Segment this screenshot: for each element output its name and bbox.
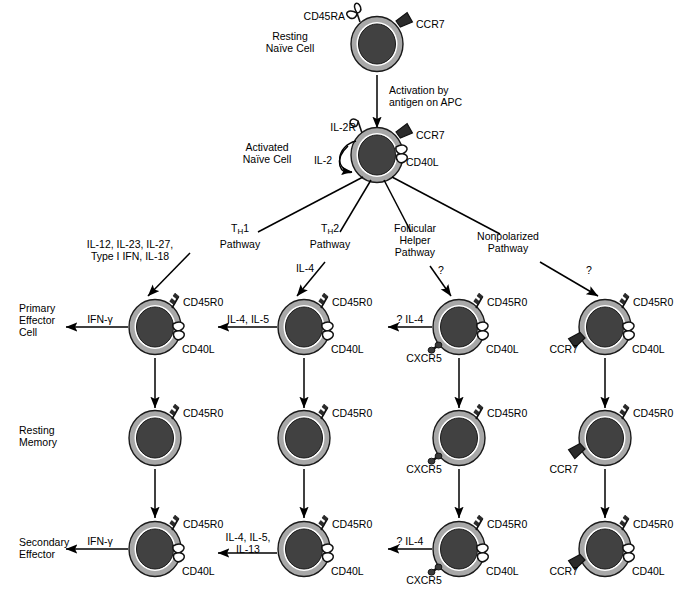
marker-label-cd45ra: CD45RA <box>304 10 345 22</box>
pathway-name-nonpolarized: Nonpolarized Pathway <box>477 230 539 254</box>
marker-label-cd40l-th2-secondary: CD40L <box>331 565 364 577</box>
stage-label-activated-naive: Activated Naïve Cell <box>243 141 291 165</box>
cell-th1-resting-memory <box>129 404 181 465</box>
diagram-canvas <box>0 0 678 589</box>
cell-th2-secondary-effector <box>278 515 333 576</box>
marker-label-cd40l-fh-primary: CD40L <box>486 343 519 355</box>
marker-label-cd45r0-th1-primary: CD45R0 <box>183 296 223 308</box>
cell-th2-primary-effector <box>278 293 333 354</box>
inducing-cytokines-th2: IL-4 <box>296 262 314 274</box>
marker-label-cd40l-np-primary: CD40L <box>632 343 665 355</box>
output-label-fh-secondary: ? IL-4 <box>397 535 424 547</box>
marker-label-cxcr5-fh-memory: CXCR5 <box>406 463 442 475</box>
pathway-arrows-to-effector <box>148 253 598 296</box>
marker-label-cd45r0-np-primary: CD45R0 <box>633 296 673 308</box>
cell-th2-resting-memory <box>278 404 330 465</box>
marker-label-cd40l-th1-secondary: CD40L <box>182 565 215 577</box>
output-label-fh-primary: ? IL-4 <box>397 313 424 325</box>
cell-fh-resting-memory <box>428 404 485 465</box>
column-follicular-helper <box>388 293 488 576</box>
marker-label-cd40l-th2-primary: CD40L <box>331 343 364 355</box>
cell-fh-secondary-effector <box>428 515 488 576</box>
output-label-th2-primary: IL-4, IL-5 <box>227 313 269 325</box>
stage-label-resting-memory: Resting Memory <box>19 424 57 448</box>
output-label-th1-primary: IFN-γ <box>87 313 113 325</box>
marker-label-ccr7-activated: CCR7 <box>416 129 445 141</box>
output-label-th2-secondary: IL-4, IL-5, IL-13 <box>226 531 271 555</box>
pathway-name-th2: TH2 Pathway <box>310 222 350 250</box>
marker-label-il2: IL-2 <box>314 154 332 166</box>
pathway-branch-lines <box>258 177 500 234</box>
marker-label-cd45r0-np-secondary: CD45R0 <box>633 518 673 530</box>
marker-label-cd45r0-th1-memory: CD45R0 <box>183 407 223 419</box>
column-th1 <box>66 293 184 576</box>
activation-label: Activation by antigen on APC <box>389 84 462 108</box>
cell-np-resting-memory <box>568 404 631 465</box>
output-label-th1-secondary: IFN-γ <box>87 535 113 547</box>
marker-label-il2r: IL-2R <box>330 121 356 133</box>
marker-label-cd40l-np-secondary: CD40L <box>632 565 665 577</box>
marker-label-cd45r0-th2-secondary: CD45R0 <box>332 518 372 530</box>
marker-label-cd40l-fh-secondary: CD40L <box>486 565 519 577</box>
inducing-cytokines-th1: IL-12, IL-23, IL-27, Type I IFN, IL-18 <box>87 238 173 262</box>
pathway-th2-line1: TH2 <box>321 222 339 234</box>
cell-th1-primary-effector <box>129 293 184 354</box>
stage-label-secondary-effector: Secondary Effector <box>19 536 69 560</box>
cell-fh-primary-effector <box>428 293 488 354</box>
marker-label-cd40l-th1-primary: CD40L <box>182 343 215 355</box>
marker-label-ccr7-np-primary: CCR7 <box>549 343 578 355</box>
stage-label-resting-naive: Resting Naïve Cell <box>266 30 314 54</box>
marker-label-cd45r0-fh-memory: CD45R0 <box>487 407 527 419</box>
marker-label-ccr7-np-memory: CCR7 <box>549 463 578 475</box>
marker-label-cd45r0-fh-secondary: CD45R0 <box>487 518 527 530</box>
marker-label-cd45r0-np-memory: CD45R0 <box>633 407 673 419</box>
marker-label-cd40l-activated: CD40L <box>406 156 439 168</box>
marker-label-cd45r0-th1-secondary: CD45R0 <box>183 518 223 530</box>
marker-label-cxcr5-fh-secondary: CXCR5 <box>406 574 442 586</box>
marker-label-cd45r0-th2-primary: CD45R0 <box>332 296 372 308</box>
column-nonpolarized <box>568 293 634 576</box>
marker-label-ccr7-naive: CCR7 <box>416 18 445 30</box>
stage-label-primary-effector: Primary Effector Cell <box>19 302 55 338</box>
pathway-name-th1: TH1 Pathway <box>220 222 260 250</box>
pathway-name-follicular-helper: Follicular Helper Pathway <box>394 222 436 258</box>
marker-label-ccr7-np-secondary: CCR7 <box>549 565 578 577</box>
pathway-th1-line1: TH1 <box>231 222 249 234</box>
cell-resting-naive <box>347 3 413 71</box>
marker-label-cxcr5-fh-primary: CXCR5 <box>406 352 442 364</box>
question-mark-nonpolarized: ? <box>586 264 592 276</box>
question-mark-follicular-helper: ? <box>438 264 444 276</box>
marker-label-cd45r0-fh-primary: CD45R0 <box>487 296 527 308</box>
cell-th1-secondary-effector <box>129 515 184 576</box>
t-cell-differentiation-diagram: Resting Naïve Cell Activated Naïve Cell … <box>0 0 678 589</box>
marker-label-cd45r0-th2-memory: CD45R0 <box>332 407 372 419</box>
